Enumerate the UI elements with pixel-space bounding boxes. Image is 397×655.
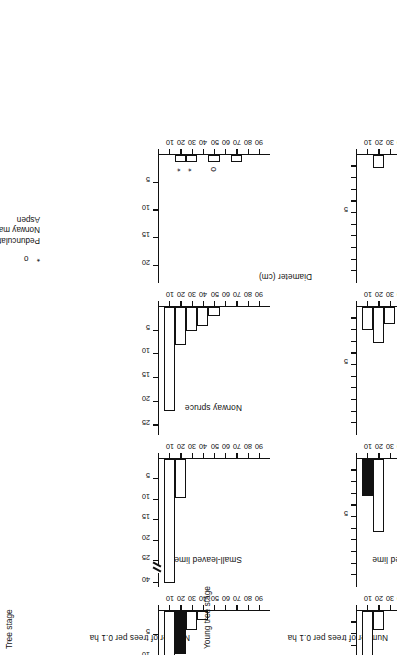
x-tick-origin xyxy=(356,149,357,154)
y-tick xyxy=(153,353,158,354)
x-tick-origin xyxy=(158,301,159,306)
y-tick-label: 15 xyxy=(142,230,150,239)
histogram-bar xyxy=(175,611,186,654)
y-tick xyxy=(351,235,356,236)
y-tick xyxy=(153,209,158,210)
histogram-bar xyxy=(362,307,373,330)
y-tick xyxy=(351,387,356,388)
x-tick-label: 10 xyxy=(165,138,173,147)
y-tick xyxy=(351,574,356,575)
y-tick xyxy=(351,645,356,646)
x-tick-label: 30 xyxy=(188,442,196,451)
x-tick-label: 30 xyxy=(188,594,196,603)
y-tick xyxy=(351,504,356,505)
x-tick xyxy=(180,453,181,458)
y-tick xyxy=(153,237,158,238)
x-tick xyxy=(192,605,193,610)
histogram-bar xyxy=(186,611,197,630)
x-tick xyxy=(367,301,368,306)
y-axis-line xyxy=(158,154,159,283)
histogram-bar xyxy=(175,307,186,345)
x-tick xyxy=(390,605,391,610)
histogram-bar xyxy=(373,307,384,343)
histogram-bar xyxy=(373,459,384,532)
y-tick-label: 40 xyxy=(142,575,150,584)
y-tick xyxy=(153,330,158,331)
panel-row-young-tree-stage: Young tree stage Number of trees per 0.1… xyxy=(198,0,396,655)
panel-row-tree-stage: Tree stage Number of trees per 0.1 ha 10… xyxy=(0,0,198,655)
x-tick-label: 10 xyxy=(363,442,371,451)
legend-symbols: * o xyxy=(21,254,40,263)
x-tick-label: 30 xyxy=(188,290,196,299)
y-tick-label: 15 xyxy=(142,370,150,379)
panel-aspen: 1020304050607080905AspenDiameter (cm) xyxy=(198,195,396,347)
x-tick-label: 20 xyxy=(375,442,383,451)
y-tick xyxy=(351,399,356,400)
x-tick-label: 10 xyxy=(165,442,173,451)
y-tick xyxy=(351,551,356,552)
histogram-bar xyxy=(164,611,175,655)
y-tick xyxy=(351,177,356,178)
y-tick-label: 10 xyxy=(142,492,150,501)
x-tick-label: 30 xyxy=(386,138,394,147)
y-tick-label: 5 xyxy=(344,357,348,366)
y-tick xyxy=(351,341,356,342)
x-tick xyxy=(169,149,170,154)
data-marker-asterisk: * xyxy=(187,168,196,172)
y-axis-line xyxy=(158,306,159,435)
y-tick xyxy=(351,411,356,412)
y-axis-line xyxy=(356,458,357,587)
x-tick-label: 20 xyxy=(375,594,383,603)
panel-pedunculate-oak-norway-maple-aspen: 1020304050607080905101520**o xyxy=(0,43,198,195)
y-tick xyxy=(351,329,356,330)
x-tick xyxy=(378,605,379,610)
x-tick xyxy=(180,605,181,610)
y-tick xyxy=(153,634,158,635)
y-tick-label: 5 xyxy=(146,175,150,184)
x-tick-origin xyxy=(356,605,357,610)
histogram-bar xyxy=(373,611,384,630)
x-tick xyxy=(367,605,368,610)
x-tick xyxy=(169,301,170,306)
y-tick xyxy=(351,493,356,494)
x-tick-label: 30 xyxy=(386,594,394,603)
x-tick xyxy=(367,149,368,154)
x-tick xyxy=(390,149,391,154)
panel-small-leaved-lime: 1020304050607080905Small-leaved lime xyxy=(198,347,396,499)
y-tick-label: 25 xyxy=(142,553,150,562)
y-tick xyxy=(351,212,356,213)
y-axis-line xyxy=(356,610,357,655)
x-tick xyxy=(378,301,379,306)
y-tick-label: 5 xyxy=(146,323,150,332)
y-tick-label: 15 xyxy=(142,512,150,521)
histogram-bar xyxy=(175,459,186,498)
x-tick-label: 10 xyxy=(363,594,371,603)
x-tick-origin xyxy=(356,301,357,306)
y-tick-label: 20 xyxy=(142,258,150,267)
legend-entry-2: Aspen xyxy=(0,214,40,225)
histogram-bar xyxy=(384,307,395,324)
y-axis-line xyxy=(158,610,159,655)
y-tick xyxy=(351,633,356,634)
x-tick xyxy=(169,453,170,458)
panel-hornbeam: 1020304050607080905Hornbeam xyxy=(198,499,396,651)
y-tick xyxy=(351,352,356,353)
x-tick xyxy=(192,149,193,154)
y-tick xyxy=(153,478,158,479)
y-axis-line xyxy=(356,306,357,435)
histogram-bar xyxy=(362,611,373,655)
x-tick-label: 10 xyxy=(363,290,371,299)
histogram-bar xyxy=(186,307,197,331)
y-tick xyxy=(351,200,356,201)
x-tick xyxy=(378,453,379,458)
tree-diameter-distribution-figure: Tree stage Number of trees per 0.1 ha 10… xyxy=(0,0,397,655)
x-tick-label: 20 xyxy=(177,290,185,299)
y-tick-label: 10 xyxy=(142,650,150,655)
x-tick-label: 10 xyxy=(165,290,173,299)
x-tick-origin xyxy=(158,149,159,154)
x-tick-label: 20 xyxy=(375,138,383,147)
x-tick xyxy=(390,453,391,458)
y-tick xyxy=(351,224,356,225)
y-tick-label: 5 xyxy=(344,509,348,518)
histogram-bar xyxy=(373,155,384,168)
